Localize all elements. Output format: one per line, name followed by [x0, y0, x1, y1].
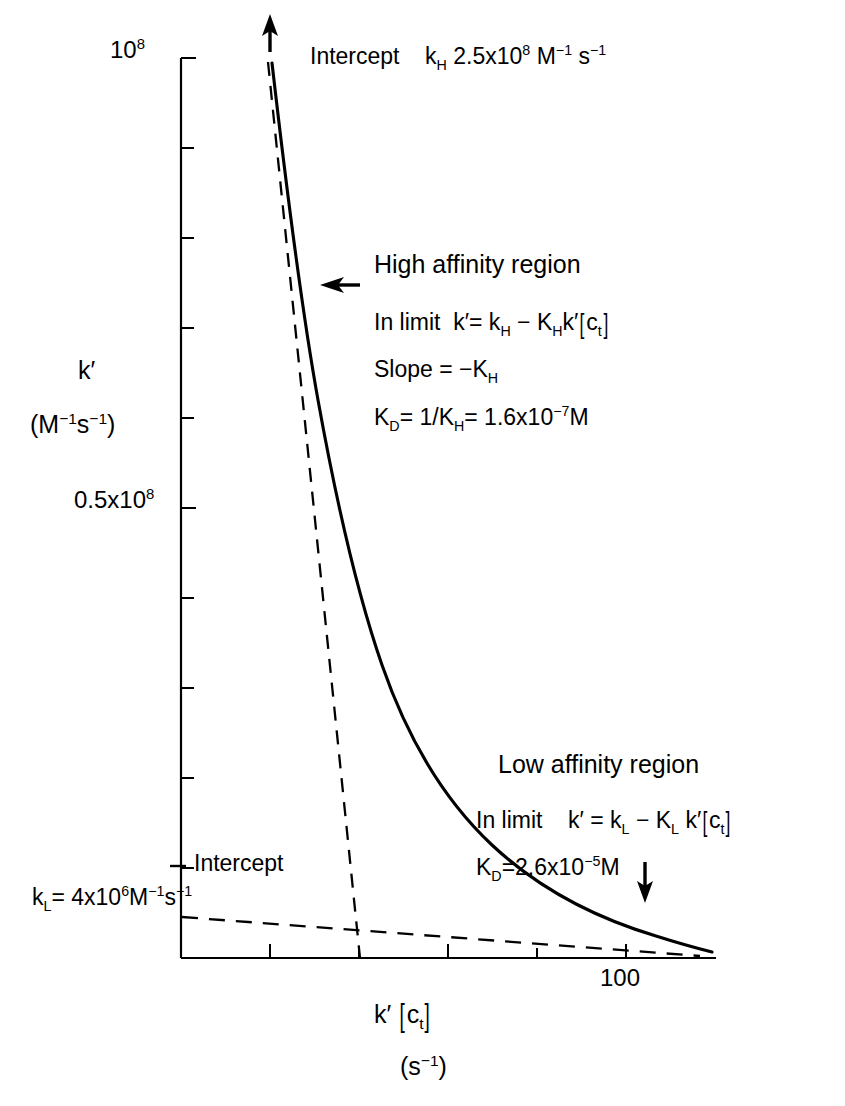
high-affinity-asymptote	[268, 62, 360, 958]
top-intercept-annotation: Intercept kH 2.5x108 M−1 s−1	[310, 45, 606, 68]
bottom-intercept-value: kL= 4x106M−1s−1	[32, 886, 192, 909]
low-affinity-asymptote	[182, 917, 700, 956]
up-arrow-icon	[262, 14, 278, 52]
left-arrow-icon	[320, 277, 360, 293]
y-tick-label-mid: 0.5x108	[74, 488, 154, 512]
bottom-intercept-word: Intercept	[194, 852, 284, 875]
high-affinity-limit-equation: In limit k′= kH − KHk′[ct]	[374, 310, 609, 338]
low-affinity-kd: KD=2.6x10−5M	[476, 856, 620, 879]
x-tick-label-100: 100	[600, 966, 640, 990]
high-affinity-title: High affinity region	[374, 252, 581, 277]
x-axis-title: k′ [ct]	[374, 1000, 432, 1031]
figure-canvas: 108 0.5x108 100 k′ (M−1s−1) k′ [ct] (s−1…	[0, 0, 845, 1106]
x-axis-units: (s−1)	[400, 1054, 447, 1079]
plot-vector-layer	[0, 0, 845, 1106]
down-arrow-icon	[637, 862, 653, 903]
y-tick-label-top: 108	[110, 38, 145, 62]
high-affinity-slope: Slope = −KH	[374, 358, 498, 381]
low-affinity-limit-equation: In limit k′ = kL − KL k′[ct]	[476, 808, 732, 836]
y-axis-ticks	[181, 58, 196, 868]
low-affinity-title: Low affinity region	[498, 752, 699, 777]
y-axis-title-line1: k′	[78, 358, 95, 383]
y-axis-title-line2: (M−1s−1)	[30, 412, 115, 437]
high-affinity-kd: KD= 1/KH= 1.6x10−7M	[374, 406, 589, 429]
